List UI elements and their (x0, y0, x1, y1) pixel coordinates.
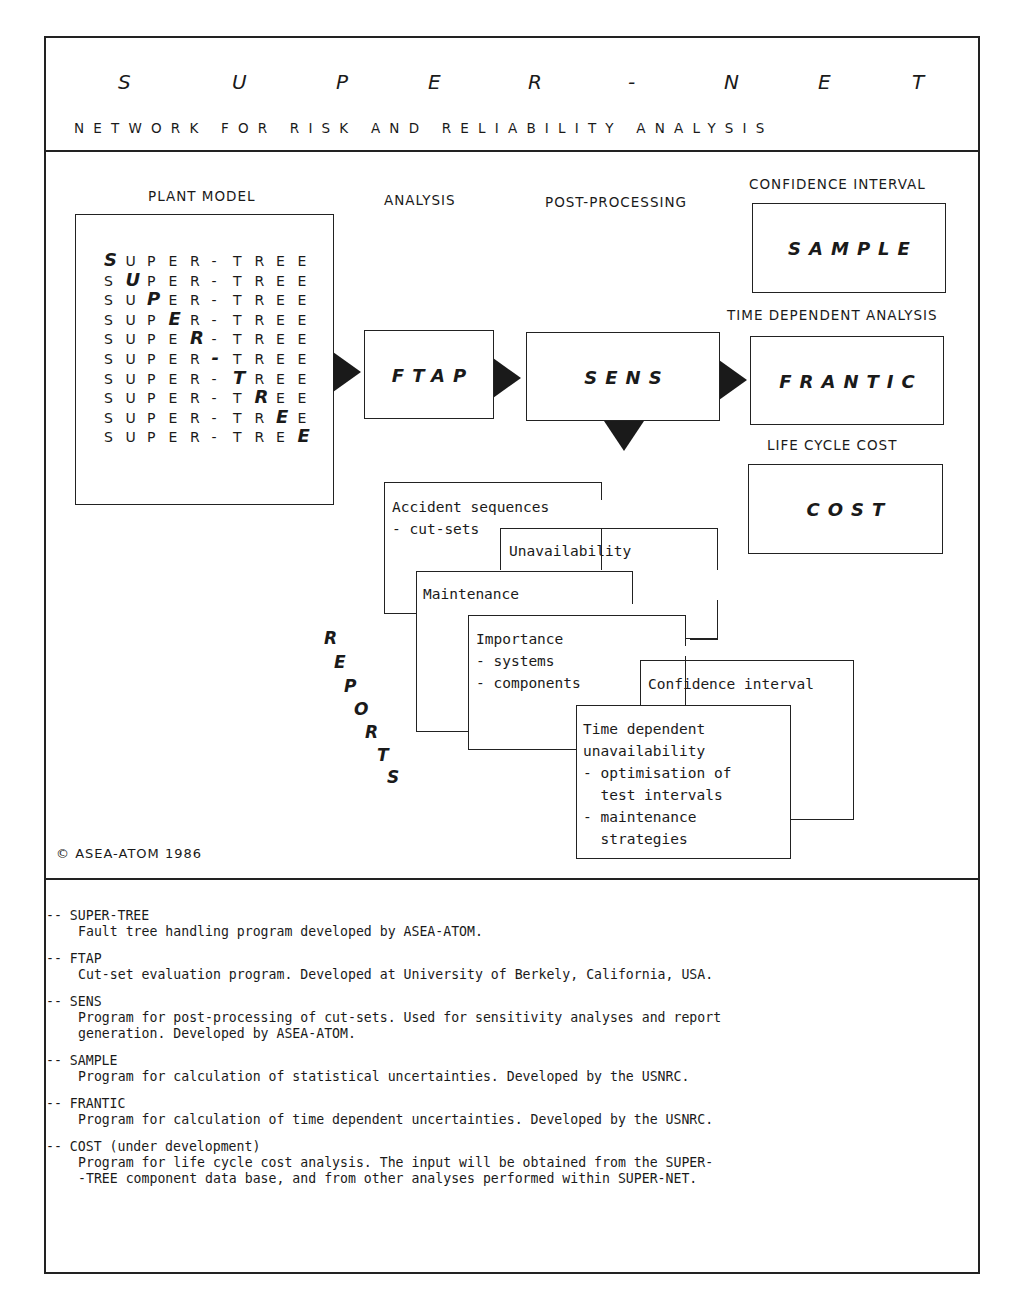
reports-letter: E (334, 652, 346, 672)
report-text-unavailability: Unavailability (509, 540, 631, 562)
super-tree-letter: - (212, 389, 234, 409)
super-tree-letter: R (255, 387, 277, 407)
super-tree-letter: T (233, 368, 255, 388)
super-tree-letter: U (126, 270, 148, 290)
super-tree-letter: - (212, 291, 234, 311)
label-time-dependent-analysis: TIME DEPENDENT ANALYSIS (727, 307, 938, 323)
super-tree-letter: R (190, 328, 212, 348)
frantic-label: FRANTIC (751, 370, 943, 391)
report-text-confidence-interval: Confidence interval (648, 673, 814, 695)
super-tree-letter: R (190, 389, 212, 409)
sample-box: SAMPLE (752, 203, 946, 293)
super-tree-letter: E (298, 252, 320, 272)
super-tree-letter: U (126, 428, 148, 448)
super-tree-letter: - (212, 428, 234, 448)
legend-description: Program for life cycle cost analysis. Th… (46, 1155, 966, 1171)
label-confidence-interval: CONFIDENCE INTERVAL (749, 176, 926, 192)
super-tree-letter: U (126, 389, 148, 409)
title-letter: R (528, 70, 542, 94)
legend-description: Fault tree handling program developed by… (46, 924, 966, 940)
label-analysis: ANALYSIS (384, 192, 456, 208)
super-tree-row: SUPER-TREE (104, 407, 319, 427)
legend-description: Program for post-processing of cut-sets.… (46, 1010, 966, 1026)
sens-box: SENS (526, 332, 720, 421)
reports-letter: R (365, 722, 378, 742)
super-tree-row: SUPER-TREE (104, 387, 319, 407)
title-letter: - (628, 70, 635, 94)
super-tree-letter: E (276, 252, 298, 272)
super-tree-row: SUPER-TREE (104, 368, 319, 388)
title-letter: N (724, 70, 739, 94)
super-tree-letter: R (255, 291, 277, 311)
report-text-accident-sequences: Accident sequences- cut-sets (392, 496, 549, 540)
super-tree-letter: E (169, 428, 191, 448)
title-letter: E (428, 70, 441, 94)
super-tree-letter: E (276, 407, 298, 427)
ftap-box: FTAP (364, 330, 494, 419)
reports-letter: T (377, 745, 389, 765)
super-tree-letter: R (190, 252, 212, 272)
cost-label: COST (749, 499, 942, 520)
super-tree-letter: R (190, 428, 212, 448)
report-text-maintenance: Maintenance (423, 583, 519, 605)
legend-term: -- SAMPLE (46, 1053, 966, 1069)
legend-item: -- SENSProgram for post-processing of cu… (46, 994, 966, 1042)
super-tree-letter: E (276, 350, 298, 370)
legend-item: -- FRANTICProgram for calculation of tim… (46, 1096, 966, 1128)
legend-item: -- COST (under development)Program for l… (46, 1139, 966, 1187)
reports-letter: P (344, 676, 356, 696)
super-tree-letter: S (104, 291, 126, 311)
legend-term: -- SENS (46, 994, 966, 1010)
legend-term: -- FTAP (46, 951, 966, 967)
frantic-box: FRANTIC (750, 336, 944, 425)
legend-description: Program for calculation of statistical u… (46, 1069, 966, 1085)
super-tree-row: SUPER-TREE (104, 348, 319, 368)
super-tree-row: SUPER-TREE (104, 270, 319, 290)
title-letter: P (336, 70, 348, 94)
legend-description: -TREE component data base, and from othe… (46, 1171, 966, 1187)
super-tree-letter: T (233, 389, 255, 409)
legend-description: Cut-set evaluation program. Developed at… (46, 967, 966, 983)
super-tree-letter: P (147, 350, 169, 370)
legend-term: -- SUPER-TREE (46, 908, 966, 924)
super-tree-letter: S (104, 350, 126, 370)
super-tree-letter: P (147, 428, 169, 448)
title-letter: T (912, 70, 924, 94)
ftap-label: FTAP (365, 364, 493, 385)
arrow-right-icon (493, 358, 521, 398)
super-tree-letter: E (169, 309, 191, 329)
label-plant-model: PLANT MODEL (148, 188, 256, 204)
super-tree-letter: T (233, 428, 255, 448)
sens-label: SENS (527, 366, 719, 387)
super-tree-letter: E (276, 291, 298, 311)
super-tree-letter: U (126, 350, 148, 370)
report-text-time-dependent: Time dependentunavailability- optimisati… (583, 718, 731, 850)
label-life-cycle-cost: LIFE CYCLE COST (767, 437, 897, 453)
legend-term: -- COST (under development) (46, 1139, 966, 1155)
super-tree-letter: E (169, 252, 191, 272)
super-tree-row: SUPER-TREE (104, 328, 319, 348)
sample-label: SAMPLE (753, 238, 945, 259)
legend-description: Program for calculation of time dependen… (46, 1112, 966, 1128)
super-tree-row: SUPER-TREE (104, 309, 319, 329)
page-subtitle: NETWORK FOR RISK AND RELIABILITY ANALYSI… (74, 120, 954, 136)
cost-box: COST (748, 464, 943, 554)
legend-description: generation. Developed by ASEA-ATOM. (46, 1026, 966, 1042)
legend-item: -- FTAPCut-set evaluation program. Devel… (46, 951, 966, 983)
super-tree-letter: R (190, 350, 212, 370)
super-tree-letter: E (298, 426, 320, 446)
super-tree-letter: E (298, 389, 320, 409)
super-tree-letter: E (298, 350, 320, 370)
super-tree-letter: S (104, 250, 126, 270)
legend-item: -- SAMPLEProgram for calculation of stat… (46, 1053, 966, 1085)
super-tree-row: SUPER-TREE (104, 426, 319, 446)
label-post-processing: POST-PROCESSING (545, 194, 687, 210)
legend-list: -- SUPER-TREEFault tree handling program… (46, 908, 966, 1198)
super-tree-letter: T (233, 252, 255, 272)
super-tree-letter: R (255, 428, 277, 448)
legend-term: -- FRANTIC (46, 1096, 966, 1112)
super-tree-letter: E (298, 291, 320, 311)
super-tree-letter: P (147, 389, 169, 409)
reports-letter: R (324, 628, 337, 648)
super-tree-letter: E (169, 350, 191, 370)
